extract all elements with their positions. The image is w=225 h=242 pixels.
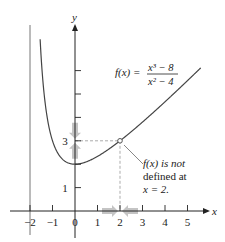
x-tick-label: 4 xyxy=(162,216,168,228)
x-axis-label: x xyxy=(211,205,217,217)
y-tick-label: 3 xyxy=(62,135,68,147)
chart-container: −2−101234513 y x f(x) = x³ − 8 x² − 4 f(… xyxy=(0,0,225,242)
formula-denominator: x² − 4 xyxy=(147,76,174,87)
x-tick-label: −1 xyxy=(47,216,59,228)
ticks: −2−101234513 xyxy=(24,71,191,228)
y-axis-arrowhead xyxy=(72,24,78,31)
annotation-leader xyxy=(124,145,143,164)
annotation-line-1: f(x) is not xyxy=(143,157,186,170)
axes xyxy=(10,24,210,238)
y-tick-label: 1 xyxy=(62,182,68,194)
x-tick-label: 5 xyxy=(185,216,191,228)
x-tick-label: 1 xyxy=(95,216,101,228)
limit-arrows xyxy=(69,123,138,217)
y-axis-label: y xyxy=(71,11,77,23)
x-tick-label: 2 xyxy=(117,216,123,228)
x-tick-label: 0 xyxy=(72,216,78,228)
hole-point xyxy=(118,139,123,144)
x-tick-label: 3 xyxy=(140,216,146,228)
annotation-line-3: x = 2. xyxy=(142,183,169,195)
function-formula: f(x) = x³ − 8 x² − 4 xyxy=(115,62,178,87)
x-axis-arrowhead xyxy=(203,208,210,214)
hole-annotation: f(x) is not defined at x = 2. xyxy=(124,145,187,195)
formula-lhs: f(x) = xyxy=(115,66,140,79)
chart-svg: −2−101234513 y x f(x) = x³ − 8 x² − 4 f(… xyxy=(0,0,225,242)
x-tick-label: −2 xyxy=(24,216,36,228)
annotation-line-2: defined at xyxy=(143,170,187,182)
formula-numerator: x³ − 8 xyxy=(147,62,174,73)
dashed-guides xyxy=(75,141,120,211)
